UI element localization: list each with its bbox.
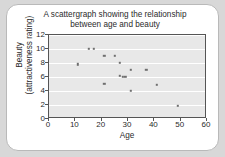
y-tick-label: 2: [31, 100, 45, 109]
x-tick-mark: [48, 118, 49, 121]
y-tick-mark: [45, 90, 48, 91]
x-tick-mark: [153, 118, 154, 121]
gridline: [49, 91, 205, 92]
data-point: [103, 55, 105, 57]
data-point: [87, 48, 89, 50]
data-point: [145, 69, 147, 71]
chart-title: A scattergraph showing the relationship …: [25, 10, 205, 30]
gridline: [49, 77, 205, 78]
y-tick-mark: [45, 48, 48, 49]
x-tick-label: 40: [144, 120, 162, 129]
y-tick-label: 4: [31, 86, 45, 95]
y-tick-label: 6: [31, 72, 45, 81]
x-tick-mark: [74, 118, 75, 121]
gridline: [49, 105, 205, 106]
data-point: [156, 83, 158, 85]
x-tick-label: 50: [171, 120, 189, 129]
x-tick-label: 60: [197, 120, 215, 129]
y-tick-mark: [45, 34, 48, 35]
data-point: [124, 76, 126, 78]
y-tick-label: 8: [31, 58, 45, 67]
x-tick-mark: [180, 118, 181, 121]
y-tick-label: 10: [31, 44, 45, 53]
y-axis-tick-labels: 024681012: [29, 34, 45, 118]
data-point: [77, 63, 79, 65]
y-tick-mark: [45, 62, 48, 63]
data-point: [119, 62, 121, 64]
data-point: [129, 90, 131, 92]
gridline: [49, 49, 205, 50]
x-tick-label: 10: [65, 120, 83, 129]
x-tick-label: 20: [92, 120, 110, 129]
y-tick-label: 12: [31, 30, 45, 39]
data-point: [129, 69, 131, 71]
data-point: [93, 48, 95, 50]
plot-area: [48, 34, 206, 118]
x-tick-mark: [101, 118, 102, 121]
gridline: [49, 35, 205, 36]
x-tick-mark: [127, 118, 128, 121]
scattergraph: A scattergraph showing the relationship …: [7, 5, 220, 152]
x-tick-label: 0: [39, 120, 57, 129]
x-axis-title: Age: [48, 131, 206, 140]
data-point: [177, 104, 179, 106]
chart-card: A scattergraph showing the relationship …: [6, 4, 219, 151]
data-point: [114, 55, 116, 57]
data-point: [103, 83, 105, 85]
gridline: [49, 63, 205, 64]
x-tick-mark: [206, 118, 207, 121]
y-tick-mark: [45, 76, 48, 77]
x-tick-label: 30: [118, 120, 136, 129]
y-tick-mark: [45, 104, 48, 105]
